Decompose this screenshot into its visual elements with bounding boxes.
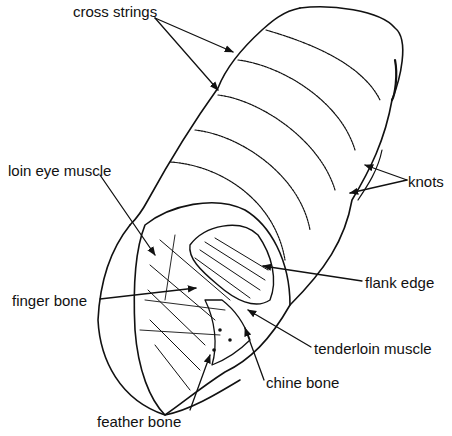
label-loin-eye-muscle: loin eye muscle [8,163,111,178]
label-flank-edge: flank edge [365,275,434,290]
label-chine-bone: chine bone [266,375,339,390]
label-knots: knots [408,174,444,189]
label-tenderloin-muscle: tenderloin muscle [314,341,432,356]
roast-drawing [0,0,452,436]
label-feather-bone: feather bone [97,414,181,429]
label-cross-strings: cross strings [73,4,157,19]
roast-diagram: cross strings knots loin eye muscle flan… [0,0,452,436]
label-finger-bone: finger bone [12,293,87,308]
